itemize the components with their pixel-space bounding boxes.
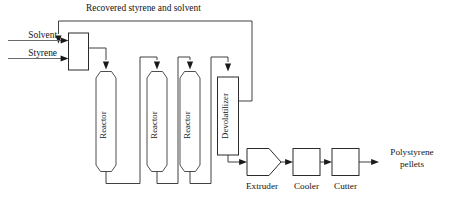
reactor-3-label: Reactor (182, 111, 192, 138)
devolatilizer-to-extruder-line (228, 155, 240, 162)
cutter-unit (332, 149, 359, 176)
devolatilizer-to-extruder-arrow (239, 159, 247, 165)
mixer-to-reactor1-arrow (103, 62, 109, 70)
cutter-to-product-group (359, 159, 379, 165)
reactor-1-label: Reactor (98, 111, 108, 138)
feed-styrene-label: Styrene (28, 48, 57, 58)
extruder-to-cooler-group (281, 159, 293, 165)
reactor2-to-reactor3-arrow (187, 62, 193, 70)
feed-solvent-arrow (61, 37, 69, 43)
recycle-stream-label: Recovered styrene and solvent (86, 3, 201, 13)
devolatilizer-to-extruder-group (228, 155, 247, 165)
feed-solvent-label: Solvent (28, 30, 57, 40)
reactor3-to-devolatilizer-arrow (225, 64, 231, 72)
mixer-unit (69, 33, 89, 70)
cooler-to-cutter-arrow (324, 159, 332, 165)
cooler-to-cutter-group (320, 159, 332, 165)
process-flow-diagram: Recovered styrene and solvent Solvent St… (0, 0, 450, 201)
mixer-to-reactor1-line (89, 48, 107, 60)
product-label-line-1: Polystyrene (390, 147, 433, 157)
devolatilizer-label: Devolatilizer (220, 93, 230, 139)
mixer-to-reactor1-group (89, 48, 110, 70)
extruder-unit (247, 149, 281, 176)
extruder-label: Extruder (246, 181, 278, 191)
flow-diagram-canvas: Recovered styrene and solvent Solvent St… (0, 0, 450, 201)
reactor-2-label: Reactor (149, 111, 159, 138)
extruder-to-cooler-arrow (285, 159, 293, 165)
cutter-label: Cutter (334, 181, 357, 191)
cooler-unit (293, 149, 320, 176)
product-outlet-arrow (371, 159, 379, 165)
reactor1-to-reactor2-arrow (154, 62, 160, 70)
cooler-label: Cooler (294, 181, 319, 191)
product-label-line-2: pellets (400, 159, 424, 169)
feed-styrene-arrow (61, 55, 69, 61)
